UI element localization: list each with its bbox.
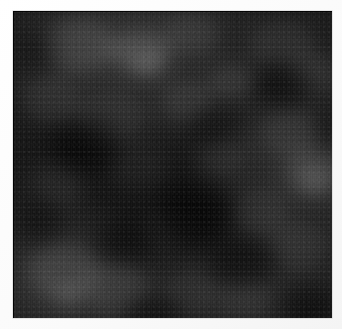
texture-cloud-blob xyxy=(123,297,183,318)
texture-cloud-blob xyxy=(313,107,332,147)
dark-mottled-texture-image xyxy=(13,11,332,318)
texture-cloud-blob xyxy=(229,189,289,235)
texture-cloud-blob xyxy=(285,149,332,197)
texture-grain-layer xyxy=(13,11,332,318)
texture-cloud-blob xyxy=(31,161,85,207)
texture-cloud-blob xyxy=(163,269,219,313)
texture-cloud-blob xyxy=(131,51,165,77)
texture-cloud-blob xyxy=(83,263,149,313)
texture-cloud-layer xyxy=(13,11,332,318)
texture-cloud-blob xyxy=(289,55,332,93)
texture-cloud-blob xyxy=(209,237,275,289)
texture-cloud-blob xyxy=(13,31,59,71)
texture-cloud-blob xyxy=(219,275,271,315)
texture-streak-layer xyxy=(13,11,332,318)
texture-vignette-layer xyxy=(13,11,332,318)
texture-cloud-blob xyxy=(27,243,99,299)
texture-cloud-blob xyxy=(299,167,331,193)
texture-cloud-blob xyxy=(75,91,145,143)
texture-block-artifact-layer xyxy=(13,11,332,318)
texture-cloud-blob xyxy=(249,21,315,67)
panel-bevel-border xyxy=(13,11,332,318)
texture-cloud-blob xyxy=(159,187,235,247)
texture-cloud-blob xyxy=(99,219,153,261)
texture-cloud-blob xyxy=(53,121,117,173)
texture-cloud-blob xyxy=(257,63,313,107)
texture-cloud-blob xyxy=(209,65,255,99)
texture-cloud-blob xyxy=(109,29,171,73)
texture-cloud-blob xyxy=(23,77,81,125)
texture-cloud-blob xyxy=(259,107,321,159)
texture-cloud-blob xyxy=(281,287,332,318)
page-background xyxy=(0,0,342,329)
texture-cloud-blob xyxy=(271,223,329,271)
texture-cloud-blob xyxy=(43,19,117,73)
texture-cloud-blob xyxy=(53,283,87,309)
texture-cloud-blob xyxy=(197,139,247,179)
texture-cloud-blob xyxy=(189,107,237,145)
texture-cloud-blob xyxy=(109,145,167,189)
texture-cloud-blob xyxy=(145,207,193,245)
texture-cloud-blob xyxy=(163,15,219,55)
texture-base-layer xyxy=(13,11,332,318)
texture-cloud-blob xyxy=(13,199,63,243)
texture-cloud-blob xyxy=(161,81,215,121)
